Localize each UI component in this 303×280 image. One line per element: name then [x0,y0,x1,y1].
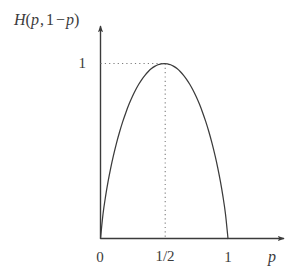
y-axis-caption-comma: , [39,11,45,28]
y-axis-caption-function: H [14,11,26,28]
x-axis-tick-label-0: 0 [88,250,112,265]
y-axis-caption: H(p,1−p) [14,12,79,28]
y-axis-tick-label-1: 1 [60,56,86,71]
y-axis-caption-one: 1 [45,11,55,28]
y-axis-caption-close-paren: ) [74,11,79,28]
y-axis-caption-arg1: p [31,11,39,28]
binary-entropy-figure: H(p,1−p) p 1 0 1/2 1 [0,0,303,280]
x-axis-tick-label-half: 1/2 [147,249,183,264]
x-axis-caption: p [268,249,276,265]
entropy-curve [101,64,229,239]
x-axis-tick-label-1: 1 [216,250,240,265]
y-axis-caption-arg2: p [66,11,74,28]
y-axis-caption-minus: − [55,11,66,28]
plot-canvas [0,0,303,280]
